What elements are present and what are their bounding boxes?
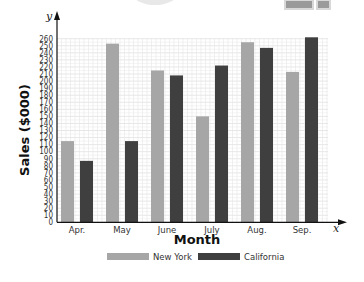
x-axis-arrow-icon <box>338 219 347 225</box>
y-axis-variable: y <box>45 10 53 23</box>
x-tick-label: May <box>113 225 131 235</box>
x-tick-label: Aug. <box>247 225 266 235</box>
legend: New York California <box>107 252 284 262</box>
x-axis-title: Month <box>174 232 221 247</box>
x-tick-label: Apr. <box>69 225 86 235</box>
bar-new-york-aug <box>241 42 254 222</box>
bar-new-york-june <box>151 70 164 222</box>
legend-label-new-york: New York <box>153 252 192 262</box>
bar-california-apr <box>80 161 93 222</box>
bar-chart: 0102030405060708090100110120130140150160… <box>0 0 364 282</box>
bar-new-york-july <box>196 116 209 222</box>
y-axis-arrow-icon <box>54 11 60 20</box>
bars <box>61 37 318 222</box>
decorative-header-graphic <box>133 0 330 9</box>
bar-california-july <box>215 66 228 223</box>
bar-new-york-apr <box>61 141 74 222</box>
bar-california-aug <box>260 48 273 222</box>
bar-california-june <box>170 75 183 222</box>
bar-california-sep <box>305 37 318 222</box>
bar-california-may <box>125 141 138 222</box>
bar-new-york-sep <box>286 72 299 222</box>
y-axis-title: Sales ($000) <box>17 84 32 176</box>
x-axis-variable: x <box>333 222 340 235</box>
bar-new-york-may <box>106 44 119 223</box>
legend-swatch-california <box>198 253 240 260</box>
y-axis-ticks: 0102030405060708090100110120130140150160… <box>39 35 53 228</box>
y-tick-label: 260 <box>39 35 53 44</box>
x-tick-label: Sep. <box>293 225 312 235</box>
legend-swatch-new-york <box>107 253 149 260</box>
legend-label-california: California <box>244 252 284 262</box>
